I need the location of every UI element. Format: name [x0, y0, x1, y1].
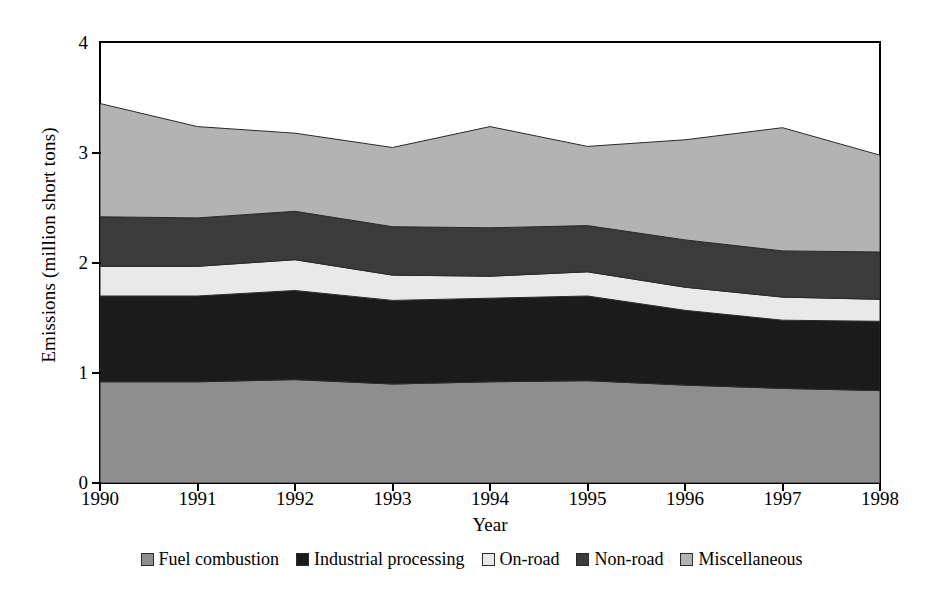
legend-label: Industrial processing [314, 549, 464, 569]
chart-figure: Emissions (million short tons) 01234 199… [0, 0, 943, 592]
x-tick-label-1993: 1993 [358, 489, 428, 509]
legend-swatch-icon [141, 553, 154, 566]
legend-item-miscellaneous[interactable]: Miscellaneous [680, 549, 802, 569]
stacked-area-plot [100, 43, 880, 483]
y-tick-label-4: 4 [52, 33, 88, 52]
y-tick-mark-1 [92, 372, 101, 374]
chart-legend: Fuel combustionIndustrial processingOn-r… [0, 549, 943, 569]
legend-swatch-icon [576, 553, 589, 566]
legend-swatch-icon [482, 553, 495, 566]
area-band-fuel-combustion [100, 380, 880, 483]
x-tick-mark-1993 [392, 483, 394, 491]
y-tick-mark-3 [92, 152, 101, 154]
legend-label: On-road [500, 549, 560, 569]
legend-label: Non-road [594, 549, 663, 569]
legend-item-on-road[interactable]: On-road [482, 549, 560, 569]
x-tick-label-1990: 1990 [65, 489, 135, 509]
x-tick-mark-1997 [782, 483, 784, 491]
legend-item-non-road[interactable]: Non-road [576, 549, 663, 569]
legend-swatch-icon [680, 553, 693, 566]
x-tick-mark-1991 [197, 483, 199, 491]
x-tick-label-1997: 1997 [748, 489, 818, 509]
legend-label: Fuel combustion [159, 549, 280, 569]
x-tick-mark-1992 [294, 483, 296, 491]
y-tick-label-2: 2 [52, 253, 88, 272]
x-tick-label-1996: 1996 [650, 489, 720, 509]
x-axis-title: Year [100, 514, 880, 536]
y-axis-title: Emissions (million short tons) [38, 10, 78, 480]
legend-label: Miscellaneous [698, 549, 802, 569]
x-tick-label-1994: 1994 [455, 489, 525, 509]
x-tick-label-1991: 1991 [163, 489, 233, 509]
x-tick-label-1995: 1995 [553, 489, 623, 509]
x-tick-label-1992: 1992 [260, 489, 330, 509]
x-tick-label-1998: 1998 [845, 489, 915, 509]
x-tick-mark-1998 [879, 483, 881, 491]
y-tick-label-3: 3 [52, 143, 88, 162]
legend-swatch-icon [296, 553, 309, 566]
x-tick-mark-1990 [99, 483, 101, 491]
x-tick-mark-1996 [684, 483, 686, 491]
y-tick-mark-2 [92, 262, 101, 264]
legend-item-industrial-processing[interactable]: Industrial processing [296, 549, 464, 569]
x-tick-mark-1994 [489, 483, 491, 491]
legend-item-fuel-combustion[interactable]: Fuel combustion [141, 549, 280, 569]
y-tick-label-1: 1 [52, 363, 88, 382]
x-tick-mark-1995 [587, 483, 589, 491]
